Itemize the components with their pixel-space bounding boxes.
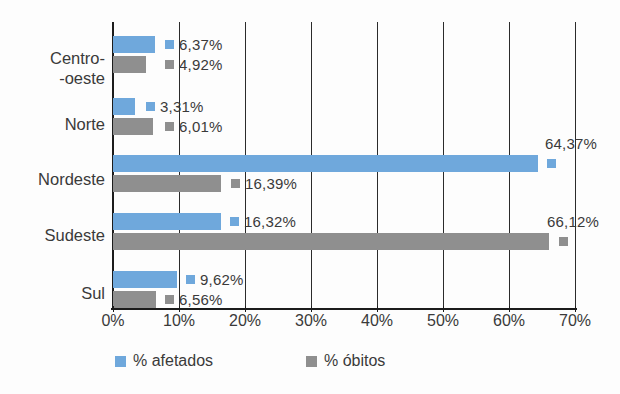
chart-figure: Centro- -oeste Norte Nordeste Sudeste Su… [0, 0, 620, 394]
y-label-sudeste: Sudeste [0, 225, 105, 245]
x-axis-labels: 0%10%20%30%40%50%60%70% [113, 312, 575, 336]
bar-obitos-sul [113, 291, 156, 308]
y-label-line-1: Norte [0, 114, 105, 134]
value-label: 3,31% [160, 98, 204, 115]
legend-label: % óbitos [324, 352, 385, 370]
x-tick-label: 50% [427, 312, 459, 330]
x-tick-label: 10% [163, 312, 195, 330]
x-tick-label: 70% [559, 312, 591, 330]
value-obitos-sudeste: 66,12% [547, 213, 599, 230]
bar-afetados-nordeste [113, 155, 538, 172]
y-label-line-1: Nordeste [0, 169, 105, 189]
gridline-70pct [575, 22, 576, 310]
value-label: 6,37% [179, 36, 223, 53]
value-label: 64,37% [545, 135, 597, 152]
marker-obitos-icon [165, 295, 174, 304]
value-obitos-nordeste: 16,39% [231, 175, 297, 192]
y-label-centro-oeste: Centro- -oeste [0, 48, 105, 88]
value-obitos-centro-oeste: 4,92% [165, 56, 223, 73]
x-axis-line [111, 308, 577, 310]
x-tick-label: 30% [295, 312, 327, 330]
marker-obitos-icon [559, 237, 568, 246]
y-label-line-1: Sul [0, 283, 105, 303]
y-axis-labels: Centro- -oeste Norte Nordeste Sudeste Su… [0, 22, 105, 310]
value-label: 9,62% [200, 271, 244, 288]
value-label: 6,56% [179, 291, 223, 308]
legend-label: % afetados [133, 352, 213, 370]
marker-obitos-icon [165, 122, 174, 131]
y-label-sul: Sul [0, 283, 105, 303]
x-tick-label: 60% [493, 312, 525, 330]
marker-afetados-icon [186, 275, 195, 284]
legend-item-afetados: % afetados [115, 352, 213, 370]
bar-afetados-sudeste [113, 213, 221, 230]
value-label: 66,12% [547, 213, 599, 230]
bar-obitos-nordeste [113, 175, 221, 192]
y-label-nordeste: Nordeste [0, 169, 105, 189]
marker-afetados-icon [165, 40, 174, 49]
value-afetados-sul: 9,62% [186, 271, 244, 288]
legend-swatch-afetados-icon [115, 356, 126, 367]
value-label: 6,01% [179, 118, 223, 135]
y-label-line-1: Centro- [0, 48, 105, 68]
bar-afetados-norte [113, 98, 135, 115]
value-afetados-norte: 3,31% [146, 98, 204, 115]
value-label: 16,39% [245, 175, 297, 192]
x-tick-label: 20% [229, 312, 261, 330]
chart-legend: % afetados % óbitos [113, 352, 575, 378]
bar-obitos-sudeste [113, 233, 549, 250]
legend-item-obitos: % óbitos [306, 352, 385, 370]
y-label-line-2: -oeste [0, 68, 105, 88]
x-tick-label: 40% [361, 312, 393, 330]
value-afetados-sudeste: 16,32% [230, 213, 296, 230]
y-label-line-1: Sudeste [0, 225, 105, 245]
legend-swatch-obitos-icon [306, 356, 317, 367]
bar-obitos-centro-oeste [113, 56, 146, 73]
value-afetados-nordeste: 64,37% [545, 135, 597, 152]
marker-obitos-icon [231, 179, 240, 188]
value-obitos-sul: 6,56% [165, 291, 223, 308]
value-label: 16,32% [244, 213, 296, 230]
bar-afetados-centro-oeste [113, 36, 155, 53]
value-obitos-norte: 6,01% [165, 118, 223, 135]
value-label: 4,92% [179, 56, 223, 73]
marker-afetados-icon [230, 217, 239, 226]
marker-afetados-icon [146, 102, 155, 111]
plot-area: 6,37% 4,92% 3,31% 6,01% 6 [113, 22, 575, 310]
bar-obitos-norte [113, 118, 153, 135]
y-label-norte: Norte [0, 114, 105, 134]
marker-obitos-icon [165, 60, 174, 69]
x-tick-label: 0% [101, 312, 124, 330]
bar-afetados-sul [113, 271, 177, 288]
value-afetados-centro-oeste: 6,37% [165, 36, 223, 53]
marker-afetados-icon [547, 159, 556, 168]
